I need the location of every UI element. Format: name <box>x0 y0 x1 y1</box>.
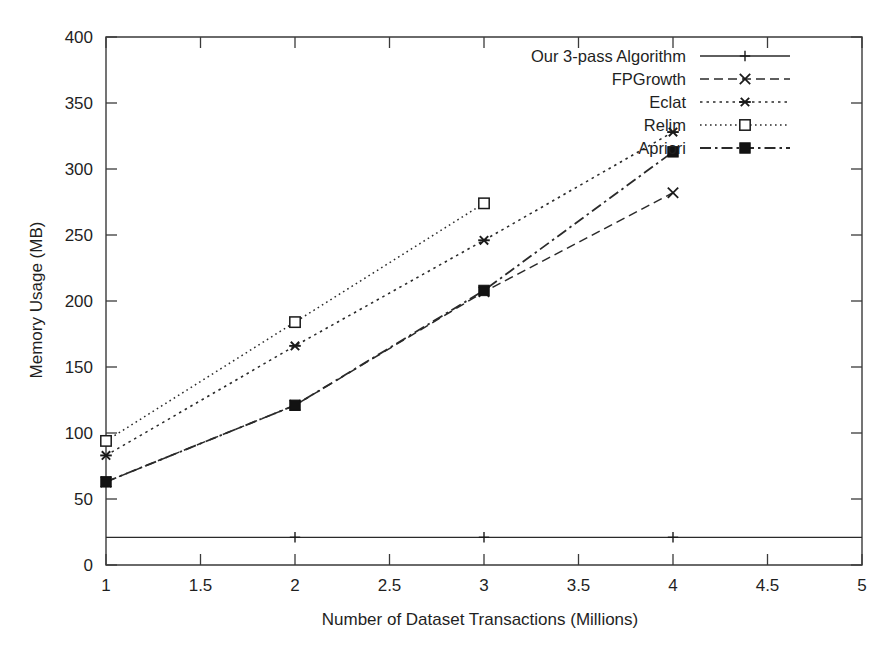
legend-label: Our 3-pass Algorithm <box>531 47 686 65</box>
y-tick-label-150: 150 <box>65 358 93 377</box>
y-tick-label-0: 0 <box>84 556 93 575</box>
legend-entry-apriori: Apriori <box>638 139 790 157</box>
legend-marker <box>740 143 750 153</box>
legend-entry-our-3-pass-algorithm: Our 3-pass Algorithm <box>531 47 790 65</box>
series-our-3-pass-algorithm <box>106 532 862 542</box>
x-tick-label-2: 2 <box>290 576 299 595</box>
y-tick-label-250: 250 <box>65 226 93 245</box>
series-path <box>106 193 673 482</box>
x-tick-label-5: 5 <box>857 576 866 595</box>
x-tick-label-4.5: 4.5 <box>756 576 780 595</box>
series-fpgrowth <box>101 188 678 487</box>
x-tick-label-1.5: 1.5 <box>189 576 213 595</box>
legend-label: Eclat <box>649 93 686 111</box>
axis-titles-layer: Memory Usage (MB) Number of Dataset Tran… <box>27 222 638 629</box>
y-tick-label-350: 350 <box>65 94 93 113</box>
x-tick-label-1: 1 <box>101 576 110 595</box>
series-path <box>106 152 673 482</box>
axes-layer: 05010015020025030035040011.522.533.544.5… <box>65 28 867 595</box>
memory-usage-line-chart: 05010015020025030035040011.522.533.544.5… <box>0 0 887 645</box>
data-point-marker <box>101 477 111 487</box>
y-tick-label-100: 100 <box>65 424 93 443</box>
legend-label: Apriori <box>638 139 686 157</box>
y-tick-label-300: 300 <box>65 160 93 179</box>
x-tick-label-3: 3 <box>479 576 488 595</box>
series-eclat <box>100 128 679 460</box>
x-tick-label-4: 4 <box>668 576 677 595</box>
x-axis-title: Number of Dataset Transactions (Millions… <box>322 610 639 629</box>
chart-canvas: 05010015020025030035040011.522.533.544.5… <box>0 0 887 645</box>
legend-label: FPGrowth <box>612 70 686 88</box>
legend-entry-relim: Relim <box>644 116 790 134</box>
data-point-marker <box>101 436 111 446</box>
y-tick-label-50: 50 <box>74 490 93 509</box>
legend-layer: Our 3-pass AlgorithmFPGrowthEclatRelimAp… <box>531 47 790 157</box>
legend-marker <box>740 120 750 130</box>
data-point-marker <box>290 317 300 327</box>
legend-entry-fpgrowth: FPGrowth <box>612 70 790 88</box>
series-apriori <box>101 147 678 487</box>
plot-frame <box>106 37 862 565</box>
y-axis-title: Memory Usage (MB) <box>27 222 46 379</box>
legend-entry-eclat: Eclat <box>649 93 790 111</box>
data-point-marker <box>479 198 489 208</box>
y-tick-label-200: 200 <box>65 292 93 311</box>
x-tick-label-2.5: 2.5 <box>378 576 402 595</box>
data-point-marker <box>290 400 300 410</box>
x-tick-label-3.5: 3.5 <box>567 576 591 595</box>
y-tick-label-400: 400 <box>65 28 93 47</box>
series-layer <box>100 128 862 543</box>
legend-label: Relim <box>644 116 686 134</box>
data-point-marker <box>479 285 489 295</box>
series-path <box>106 132 673 455</box>
